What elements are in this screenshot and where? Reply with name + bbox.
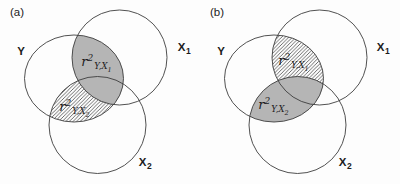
circle-label-y: Y bbox=[217, 46, 225, 58]
venn-diagram-a bbox=[0, 0, 200, 184]
circle-label-y: Y bbox=[17, 46, 25, 58]
region-label-r2-y-x1: r2Y,X1 bbox=[81, 53, 110, 69]
panel-tag: (b) bbox=[210, 6, 224, 18]
panel-a: (a) Y X1 X2 r2Y,X1 r2Y,X2 bbox=[0, 0, 200, 184]
region-label-r2-y-x2: r2Y,X2 bbox=[258, 96, 287, 112]
venn-correlation-figure: (a) Y X1 X2 r2Y,X1 r2Y,X2 (b) Y X1 X2 r2… bbox=[0, 0, 400, 184]
region-label-r2-y-x1: r2Y,X1 bbox=[278, 52, 307, 68]
circle-label-x2: X2 bbox=[139, 157, 151, 169]
panel-tag: (a) bbox=[10, 6, 24, 18]
circle-label-x2: X2 bbox=[339, 157, 351, 169]
region-label-r2-y-x2: r2Y,X2 bbox=[59, 98, 88, 114]
panel-b: (b) Y X1 X2 r2Y,X1 r2Y,X2 bbox=[200, 0, 400, 184]
lens-y-x2 bbox=[249, 77, 346, 174]
venn-diagram-b bbox=[200, 0, 400, 184]
circle-label-x1: X1 bbox=[377, 42, 389, 54]
circle-label-x1: X1 bbox=[178, 42, 190, 54]
